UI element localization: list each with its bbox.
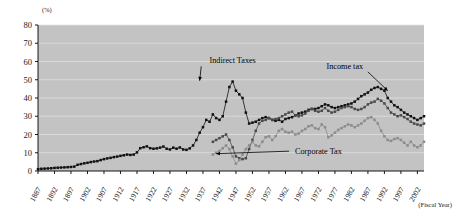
data-point [281,115,284,118]
data-point [215,117,218,120]
data-point [314,110,317,113]
data-point [245,157,248,160]
data-point [393,113,396,116]
data-point [254,120,256,123]
data-point [403,141,406,144]
data-point [400,114,403,117]
data-point [400,109,403,112]
data-point [377,122,380,125]
data-point [416,123,419,126]
data-point [113,156,116,159]
data-point [413,117,416,120]
data-point [317,110,320,113]
data-point [281,120,284,123]
data-point [251,121,254,124]
data-point [225,100,228,103]
data-point [162,145,165,148]
data-point [241,153,244,156]
data-point [330,111,333,114]
data-point [231,155,234,158]
data-point [215,139,218,142]
data-point [327,110,330,113]
data-point [367,117,370,120]
data-point [278,130,281,133]
data-point [297,112,300,115]
data-point [307,125,310,128]
data-point [390,140,393,143]
data-point [231,146,234,149]
data-point [248,144,251,147]
data-point [327,104,330,107]
data-point [50,167,53,170]
data-point [363,93,366,96]
data-point [337,109,340,112]
data-point [337,106,340,109]
tax-revenue-composition-chart: 01020304050607080 1887189218971902190719… [0,0,454,220]
data-point [70,166,73,169]
data-point [258,145,261,148]
data-point [218,150,221,153]
data-point [324,126,327,129]
data-point [228,139,231,142]
data-point [350,124,353,127]
data-point [264,116,267,119]
data-point [419,124,422,127]
data-point [261,117,264,120]
data-point [347,105,350,108]
data-point [106,157,109,160]
data-point [136,151,139,154]
data-point [294,133,297,136]
data-point [264,119,267,122]
data-point [423,122,426,125]
data-point [340,107,343,110]
data-point [251,141,254,144]
y-axis-unit-label: (%) [42,6,52,14]
data-point [268,135,271,138]
data-point [202,126,205,129]
data-point [278,117,281,120]
data-point [189,147,192,150]
data-point [367,91,370,94]
data-point [96,160,99,163]
data-point [264,136,267,139]
data-point [93,160,96,163]
data-point [416,146,419,149]
data-point [212,153,215,156]
data-point [386,139,389,142]
data-point [218,119,221,122]
data-point [330,106,333,109]
data-point [386,97,389,100]
data-point [212,113,215,116]
y-tick-label-20: 20 [24,130,33,140]
data-point [132,153,135,156]
data-point [353,100,356,103]
data-point [254,144,256,147]
data-point [287,117,290,120]
data-point [416,119,419,122]
data-point [380,88,383,91]
annotation-label: Corporate Tax [295,147,342,156]
data-point [222,147,225,150]
data-point [245,148,248,151]
data-point [337,129,340,132]
y-tick-label-70: 70 [24,38,33,48]
data-point [324,103,327,106]
y-axis-tick-labels: 01020304050607080 [24,20,33,176]
chart-canvas: 01020304050607080 1887189218971902190719… [0,0,454,220]
data-point [373,119,376,122]
data-point [99,159,102,162]
data-point [274,118,277,121]
data-point [261,141,264,144]
data-point [311,108,314,111]
data-point [320,105,323,108]
y-tick-label-60: 60 [24,57,33,67]
data-point [400,139,403,142]
data-point [198,131,201,134]
data-point [43,167,46,170]
data-point [314,127,317,130]
data-point [235,155,238,158]
data-point [228,148,231,151]
data-point [330,134,333,137]
data-point [350,106,353,109]
data-point [245,111,248,114]
